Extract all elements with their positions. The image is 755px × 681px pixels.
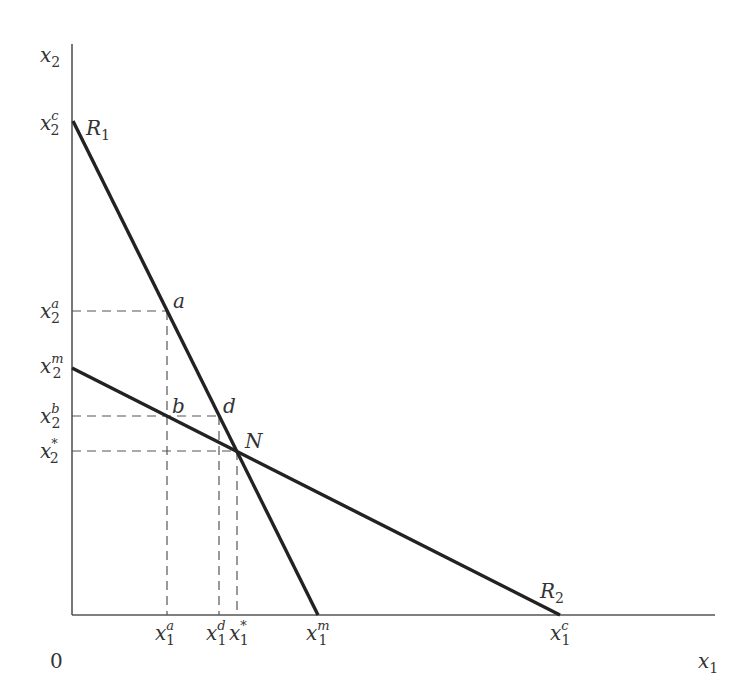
- x-tick-x1star: x*1: [229, 618, 249, 648]
- y-tick-labels: xc2 xa2 xm2 xb2 x*2: [40, 108, 64, 466]
- r2-curve: [72, 368, 560, 615]
- r1-label: R1: [85, 116, 110, 143]
- y-tick-x2c: xc2: [40, 108, 59, 138]
- origin-label: 0: [50, 649, 63, 673]
- r2-label: R2: [539, 579, 564, 606]
- x-tick-x1c: xc1: [550, 618, 570, 648]
- x-tick-x1d: xd1: [206, 618, 227, 648]
- x-tick-x1a: xa1: [155, 618, 175, 648]
- y-axis-label: x2: [40, 43, 60, 70]
- point-n-label: N: [244, 429, 264, 453]
- reaction-function-diagram: x2 x1 0 R1 R2 a b d N xc2 xa2 xm2 xb2 x*…: [0, 0, 755, 681]
- point-b-label: b: [172, 394, 185, 418]
- y-tick-x2star: x*2: [40, 436, 59, 466]
- x-axis-label: x1: [698, 649, 718, 676]
- y-tick-x2m: xm2: [40, 351, 64, 381]
- x-tick-labels: xa1 xd1 x*1 xm1 xc1: [155, 618, 570, 648]
- dashed-guides: [72, 311, 237, 615]
- y-tick-x2a: xa2: [40, 296, 60, 326]
- y-tick-x2b: xb2: [40, 401, 61, 431]
- point-d-label: d: [223, 394, 236, 418]
- r1-curve: [73, 121, 318, 615]
- x-tick-x1m: xm1: [306, 618, 330, 648]
- point-a-label: a: [173, 289, 185, 313]
